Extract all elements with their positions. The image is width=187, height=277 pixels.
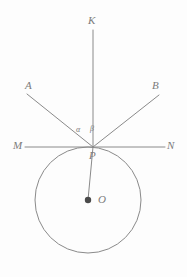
label-point-o: O — [98, 194, 106, 205]
center-point-dot — [85, 197, 91, 203]
figure-canvas — [0, 0, 187, 277]
ray-pb — [93, 95, 159, 147]
label-point-a: A — [25, 80, 32, 91]
label-point-n: N — [167, 140, 174, 151]
label-point-m: M — [13, 140, 22, 151]
label-point-k: K — [88, 15, 95, 26]
label-point-b: B — [152, 80, 159, 91]
ray-pa — [27, 94, 93, 147]
geometry-figure: K A B M N P O α β — [0, 0, 187, 277]
label-angle-beta: β — [90, 125, 94, 133]
label-point-p: P — [89, 150, 96, 161]
label-angle-alpha: α — [76, 126, 80, 134]
